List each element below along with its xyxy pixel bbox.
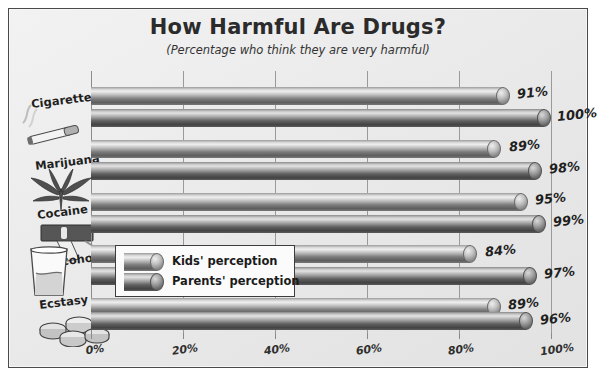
parents-cylinder-swatch (124, 273, 164, 291)
x-tick-label-60: 60% (355, 341, 383, 358)
x-tick-60 (367, 333, 368, 339)
x-tick-40 (275, 333, 276, 339)
legend-label-parents: Parents' perception (172, 274, 299, 288)
bar-value-cigarettes-parents: 100% (556, 105, 598, 124)
bar-cocaine-kids (91, 193, 528, 211)
chart-title: How Harmful Are Drugs? (9, 15, 587, 39)
x-tick-label-80: 80% (447, 341, 475, 358)
x-tick-20 (183, 333, 184, 339)
chart-frame: How Harmful Are Drugs? (Percentage who t… (8, 8, 588, 368)
bar-value-alcohol-parents: 97% (543, 263, 576, 281)
x-tick-label-100: 100% (539, 341, 574, 359)
legend-label-kids: Kids' perception (172, 254, 278, 268)
kids-cylinder-swatch (124, 253, 164, 271)
bar-value-cocaine-parents: 99% (552, 211, 585, 229)
chart-legend: Kids' perception Parents' perception (115, 245, 295, 297)
x-tick-label-40: 40% (263, 341, 291, 358)
bar-value-marijuana-parents: 98% (548, 158, 581, 176)
bar-value-ecstasy-kids: 89% (507, 294, 540, 312)
bar-cigarettes-kids (91, 87, 510, 105)
bar-marijuana-parents (91, 162, 542, 180)
bar-cocaine-parents (91, 215, 546, 233)
bar-marijuana-kids (91, 140, 501, 158)
x-tick-0 (91, 333, 92, 339)
bar-value-cocaine-kids: 95% (534, 189, 567, 207)
x-tick-80 (459, 333, 460, 339)
bar-value-cigarettes-kids: 91% (516, 83, 549, 101)
x-tick-label-0: 0% (85, 342, 105, 357)
bar-cigarettes-parents (91, 109, 551, 127)
x-tick-label-20: 20% (171, 341, 199, 358)
bar-value-alcohol-kids: 84% (484, 241, 517, 259)
bar-value-ecstasy-parents: 96% (539, 309, 572, 327)
cigarette-icon (17, 101, 95, 147)
bar-ecstasy-parents (91, 312, 533, 330)
x-tick-100 (551, 333, 552, 339)
bar-value-marijuana-kids: 89% (508, 136, 541, 154)
chart-subtitle: (Percentage who think they are very harm… (9, 43, 587, 57)
drinking-glass-icon (21, 243, 77, 301)
